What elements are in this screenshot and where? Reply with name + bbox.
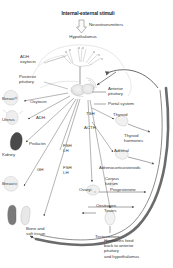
- label-acth: ACTH: [84, 125, 96, 130]
- label-thyroid-hormones: Thyroid hormones: [124, 133, 143, 143]
- label-corpus-luteum: Corpus luteum: [105, 176, 119, 186]
- label-adrenal: Adrenal: [114, 148, 129, 153]
- label-adh-oxytocin: ADH oxytocin: [20, 54, 36, 64]
- label-fsh-lh-upper: FSH LH: [63, 143, 72, 153]
- title-internal-external-stimuli: Internal-external stimuli: [45, 11, 131, 16]
- label-breast-lower: Breast: [2, 181, 14, 186]
- label-uterus: Uterus: [2, 117, 15, 122]
- label-tsh: TSH: [86, 111, 95, 116]
- label-prolactin: Prolactin: [29, 141, 46, 146]
- label-fsh-lh-lower: FSH LH: [63, 165, 72, 175]
- label-ovary: Ovary: [79, 187, 90, 192]
- label-posterior-pituitary: Posterior pituitary: [19, 74, 36, 84]
- label-oxytocin: Oxytocin: [30, 99, 47, 104]
- label-kidney: Kidney: [2, 152, 15, 157]
- label-hypothalamus: Hypothalamus: [55, 34, 111, 39]
- label-feedback-note: Hormones feed back to anterior pituitary…: [104, 238, 139, 259]
- label-portal-system: Portal system: [108, 101, 134, 106]
- label-gh: GH: [37, 167, 44, 172]
- label-progesterone: Progesterone: [110, 187, 136, 192]
- label-neurotransmitters: Neurotransmitters: [89, 22, 123, 27]
- label-breast-upper: Breast: [2, 96, 14, 101]
- label-anterior-pituitary: Anterior pituitary: [108, 86, 123, 96]
- label-adh: ADH: [36, 115, 45, 120]
- label-adrenocorticosteroids: Adrenocorticosteroids: [99, 165, 140, 170]
- label-thyroid: Thyroid: [113, 112, 127, 117]
- label-testes: Testes: [104, 208, 116, 213]
- label-bone-soft-tissue: Bone and soft tissue: [26, 226, 45, 236]
